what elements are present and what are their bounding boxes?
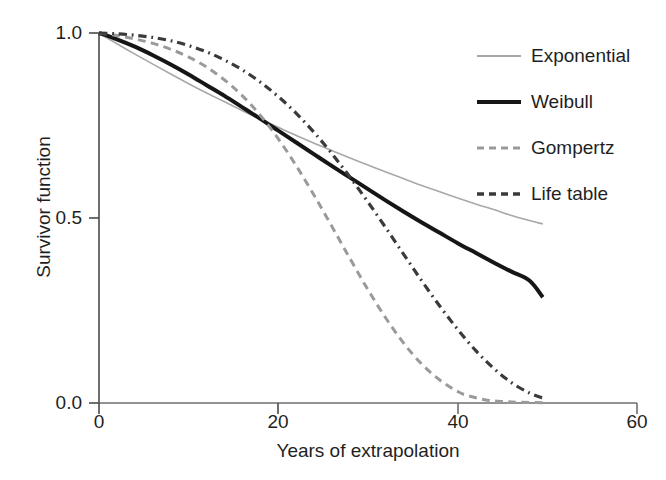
legend-item-life-table: Life table <box>476 171 666 217</box>
legend-label-gompertz: Gompertz <box>531 137 614 159</box>
legend-line-weibull <box>476 93 522 111</box>
legend-item-exponential: Exponential <box>476 33 666 79</box>
legend-line-exponential <box>476 47 522 65</box>
chart-figure: Survivor function 1.0 0.5 0.0 0 20 40 60… <box>0 0 666 480</box>
legend-label-exponential: Exponential <box>531 45 630 67</box>
legend-line-gompertz <box>476 139 522 157</box>
legend-label-weibull: Weibull <box>531 91 593 113</box>
chart-legend: Exponential Weibull Gompertz <box>476 33 666 217</box>
legend-item-weibull: Weibull <box>476 79 666 125</box>
legend-item-gompertz: Gompertz <box>476 125 666 171</box>
legend-label-life-table: Life table <box>531 183 608 205</box>
legend-line-life-table <box>476 185 522 203</box>
